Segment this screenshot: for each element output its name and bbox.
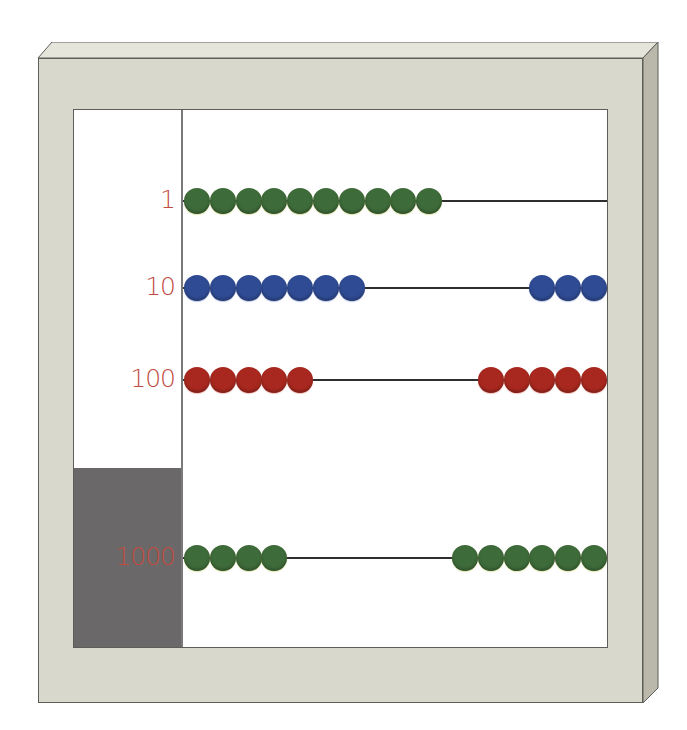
bead-left[interactable] [287,367,313,393]
bead-right[interactable] [581,545,607,571]
bead-left[interactable] [313,275,339,301]
bead-left[interactable] [184,367,210,393]
place-value-label: 1000 [115,543,175,571]
bead-left[interactable] [236,545,262,571]
place-value-label: 100 [130,365,175,393]
bead-left[interactable] [416,188,442,214]
bead-right[interactable] [581,275,607,301]
bead-left[interactable] [210,275,236,301]
bead-left[interactable] [184,188,210,214]
bead-left[interactable] [236,188,262,214]
bead-right[interactable] [452,545,478,571]
bead-left[interactable] [236,367,262,393]
bead-right[interactable] [504,545,530,571]
bead-right[interactable] [504,367,530,393]
bead-left[interactable] [287,188,313,214]
bead-left[interactable] [210,188,236,214]
frame-top-bevel [38,42,659,59]
bead-right[interactable] [478,367,504,393]
abacus-diagram: 1101001000 [0,0,687,730]
bead-left[interactable] [313,188,339,214]
bead-left[interactable] [287,275,313,301]
bead-left[interactable] [365,188,391,214]
place-value-label: 10 [145,273,175,301]
bead-left[interactable] [184,275,210,301]
bead-left[interactable] [184,545,210,571]
bead-right[interactable] [555,367,581,393]
bead-left[interactable] [339,188,365,214]
bead-right[interactable] [555,275,581,301]
bead-left[interactable] [210,545,236,571]
bead-right[interactable] [478,545,504,571]
place-value-label: 1 [160,186,175,214]
frame-side-bevel [643,42,659,703]
bead-left[interactable] [236,275,262,301]
bead-left[interactable] [339,275,365,301]
bead-right[interactable] [581,367,607,393]
bead-left[interactable] [210,367,236,393]
bead-right[interactable] [555,545,581,571]
